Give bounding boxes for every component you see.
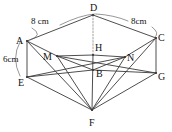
edge-A-M (27, 41, 57, 56)
vertex-label-C: C (158, 33, 165, 43)
dim-dc-label: 8cm (131, 17, 147, 26)
dim-ad-arc (60, 14, 95, 25)
edge-H-N (93, 55, 125, 57)
edge-D-C (93, 15, 156, 38)
vertex-dot-H (92, 54, 94, 56)
vertex-label-G: G (158, 72, 165, 82)
vertex-dot-F (91, 109, 93, 111)
vertex-label-N: N (127, 53, 134, 63)
vertex-dot-G (155, 72, 157, 74)
vertex-label-A: A (16, 36, 23, 46)
vertex-dot-group (26, 14, 157, 111)
solid-edge-group (27, 15, 156, 110)
vertex-dot-E (26, 76, 28, 78)
edge-E-F (27, 77, 92, 110)
geometry-figure: ABCDEFGHMN 8 cm8cm6cm (0, 0, 172, 132)
vertex-dot-N (124, 56, 126, 58)
dim-ad-leader (30, 28, 38, 40)
vertex-dot-A (26, 40, 28, 42)
edge-M-H (57, 55, 93, 56)
vertex-label-B: B (96, 69, 103, 79)
dim-ad-label: 8 cm (31, 17, 49, 26)
vertex-label-F: F (89, 118, 95, 128)
edge-A-F (27, 41, 92, 110)
edge-E-N (27, 57, 125, 77)
edge-M-F (57, 56, 92, 110)
vertex-dot-B (92, 69, 94, 71)
edge-M-B (57, 56, 93, 70)
vertex-label-D: D (90, 3, 97, 13)
dim-dc-leader (152, 27, 157, 37)
vertex-dot-C (155, 37, 157, 39)
vertex-label-E: E (18, 78, 24, 88)
vertex-dot-M (56, 55, 58, 57)
dim-ae-label: 6cm (3, 55, 19, 64)
vertex-dot-D (92, 14, 94, 16)
vertex-label-H: H (95, 43, 102, 53)
vertex-label-M: M (43, 52, 52, 62)
